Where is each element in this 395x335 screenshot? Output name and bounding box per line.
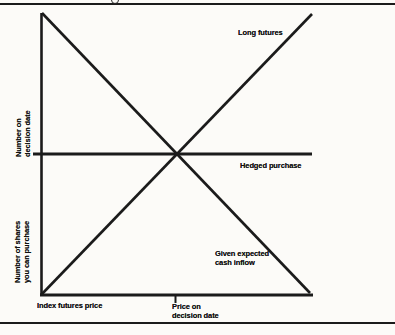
y-axis-reference-label: Number on decision date: [14, 107, 32, 157]
y-axis-title-label: Number of shares you can purchase: [13, 220, 31, 283]
given-expected-cash-inflow-label: Given expected cash inflow: [215, 249, 269, 267]
scanned-figure-page: Long futures Hedged purchase Given expec…: [0, 0, 395, 335]
x-axis-origin-label: Index futures price: [37, 301, 102, 310]
bottom-page-rule: [0, 322, 395, 324]
x-axis-tick-label: Price on decision date: [172, 302, 219, 320]
hedged-purchase-label: Hedged purchase: [240, 161, 301, 170]
hedging-chart-plot: [0, 0, 395, 335]
long-futures-label: Long futures: [238, 28, 283, 37]
